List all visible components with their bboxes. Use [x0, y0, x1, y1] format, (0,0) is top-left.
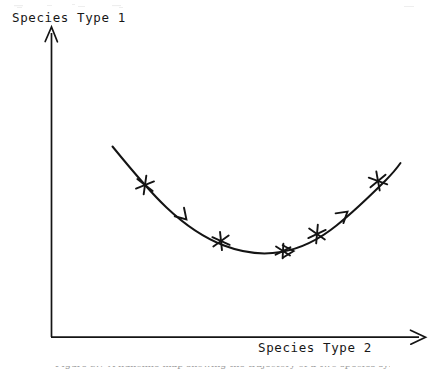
- figure-caption: Figure 3.7 A nullcline map showing the t…: [55, 366, 390, 375]
- y-axis-label: Species Type 1: [12, 12, 126, 25]
- trajectory-curve: [113, 147, 401, 254]
- figure-caption-text: Figure 3.7 A nullcline map showing the t…: [55, 366, 390, 369]
- axis-group: [45, 27, 425, 344]
- direction-arrow-group: [175, 207, 352, 258]
- figure-root: Species Type 1 Species Type 2 Figure 3.7…: [0, 0, 440, 375]
- phase-plane-drawing: [0, 0, 440, 375]
- x-axis-label: Species Type 2: [258, 342, 372, 355]
